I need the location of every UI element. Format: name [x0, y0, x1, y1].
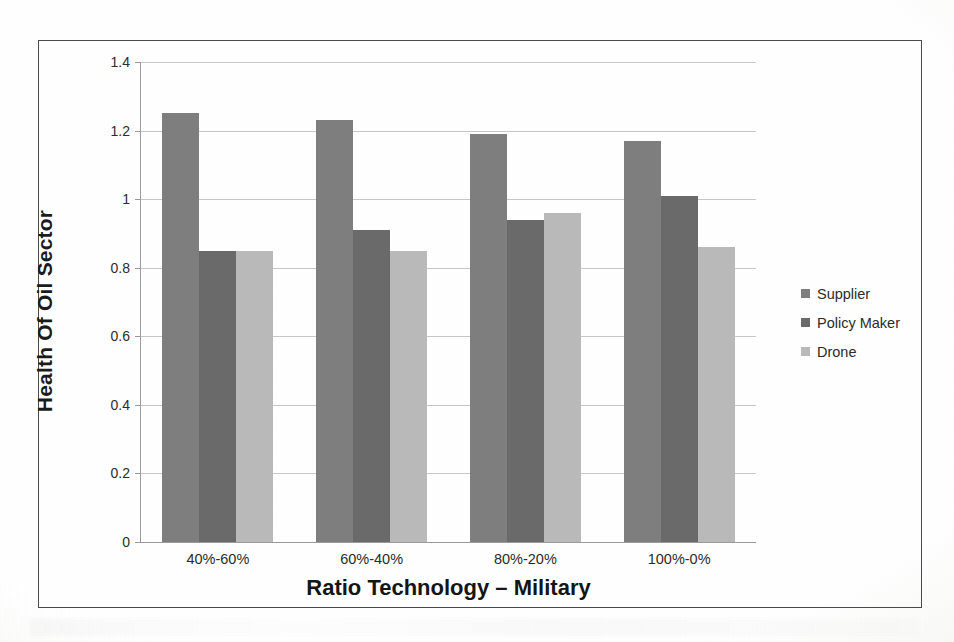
bar	[624, 141, 661, 542]
y-tick-label: 1	[122, 191, 130, 207]
legend-item: Drone	[801, 337, 900, 366]
x-tick-label: 60%-40%	[340, 551, 403, 567]
gridline	[141, 62, 756, 63]
bar	[236, 251, 273, 542]
bar	[199, 251, 236, 542]
bar	[162, 113, 199, 542]
y-tick-label: 1.4	[111, 54, 130, 70]
legend-swatch-icon	[801, 318, 810, 327]
x-tick-label: 40%-60%	[186, 551, 249, 567]
y-tick-mark	[135, 542, 141, 543]
legend-label: Drone	[817, 344, 857, 360]
chart-figure-frame: Health Of Oil Sector 00.20.40.60.811.21.…	[38, 40, 922, 608]
bar	[353, 230, 390, 542]
y-tick-mark	[135, 131, 141, 132]
bar	[470, 134, 507, 542]
y-tick-label: 1.2	[111, 123, 130, 139]
legend-item: Supplier	[801, 279, 900, 308]
gridline	[141, 542, 756, 543]
legend-label: Policy Maker	[817, 315, 900, 331]
bar	[698, 247, 735, 542]
y-tick-label: 0.4	[111, 397, 130, 413]
y-tick-mark	[135, 268, 141, 269]
y-axis-title: Health Of Oil Sector	[33, 161, 57, 461]
y-tick-label: 0.6	[111, 328, 130, 344]
gridline	[141, 131, 756, 132]
x-axis-title: Ratio Technology – Military	[141, 575, 756, 601]
y-axis-line	[140, 62, 141, 542]
bar	[507, 220, 544, 542]
x-tick-label: 100%-0%	[648, 551, 711, 567]
y-tick-mark	[135, 405, 141, 406]
bar	[661, 196, 698, 542]
y-tick-label: 0	[122, 534, 130, 550]
y-tick-mark	[135, 473, 141, 474]
y-tick-mark	[135, 199, 141, 200]
legend-label: Supplier	[817, 286, 870, 302]
x-tick-label: 80%-20%	[494, 551, 557, 567]
y-tick-label: 0.8	[111, 260, 130, 276]
y-tick-label: 0.2	[111, 465, 130, 481]
legend-item: Policy Maker	[801, 308, 900, 337]
y-tick-mark	[135, 62, 141, 63]
y-tick-mark	[135, 336, 141, 337]
chart-legend: SupplierPolicy MakerDrone	[801, 279, 900, 366]
bar	[316, 120, 353, 542]
bar	[544, 213, 581, 542]
legend-swatch-icon	[801, 347, 810, 356]
legend-swatch-icon	[801, 289, 810, 298]
plot-area: 00.20.40.60.811.21.4 40%-60%60%-40%80%-2…	[141, 62, 756, 542]
bar	[390, 251, 427, 542]
